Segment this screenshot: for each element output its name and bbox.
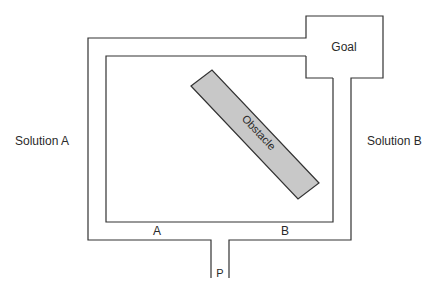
solution-b-label: Solution B	[367, 134, 422, 148]
start-label: P	[216, 267, 223, 279]
maze-diagram: Obstacle Goal Solution A Solution B A B …	[0, 0, 439, 296]
path-a-label: A	[153, 224, 161, 238]
obstacle: Obstacle	[191, 70, 319, 199]
path-b-label: B	[281, 224, 289, 238]
goal-label: Goal	[331, 40, 356, 54]
solution-a-label: Solution A	[15, 134, 69, 148]
outer-wall	[88, 16, 383, 278]
